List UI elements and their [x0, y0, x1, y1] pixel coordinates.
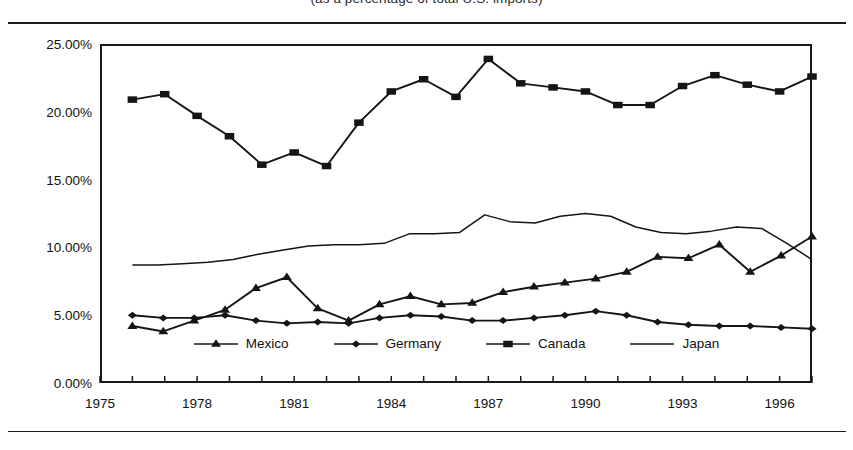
y-axis-tick-label: 5.00%	[6, 308, 92, 323]
data-point-marker	[743, 81, 753, 88]
data-point-marker	[499, 317, 508, 324]
y-axis-tick-label: 20.00%	[6, 104, 92, 119]
y-axis-tick-label: 0.00%	[6, 376, 92, 391]
y-axis-tick-label: 10.00%	[6, 240, 92, 255]
data-point-marker	[807, 232, 817, 240]
data-point-marker	[684, 321, 693, 328]
data-point-marker	[746, 323, 755, 330]
data-point-marker	[322, 163, 332, 170]
data-point-marker	[807, 73, 817, 80]
data-point-marker	[715, 323, 724, 330]
data-point-marker	[128, 96, 138, 103]
data-point-marker	[419, 76, 429, 83]
data-point-marker	[192, 113, 202, 120]
data-point-marker	[127, 321, 137, 329]
data-point-marker	[468, 317, 477, 324]
data-point-marker	[548, 84, 558, 91]
data-point-marker	[581, 88, 591, 95]
x-axis-tick-label: 1975	[85, 396, 115, 411]
data-point-marker	[653, 318, 662, 325]
data-point-marker	[613, 102, 623, 109]
line-chart: 0.00%5.00%10.00%15.00%20.00%25.00% Mexic…	[0, 0, 853, 450]
x-axis-tick-label: 1996	[765, 396, 795, 411]
data-point-marker	[225, 133, 235, 140]
x-axis-tick-label: 1978	[182, 396, 212, 411]
data-point-marker	[128, 312, 137, 319]
data-point-marker	[387, 88, 397, 95]
series-germany	[128, 308, 817, 333]
data-point-marker	[560, 312, 569, 319]
data-point-marker	[808, 325, 817, 332]
data-point-marker	[776, 251, 786, 258]
series-canada	[128, 56, 817, 170]
x-axis-tick-label: 1981	[279, 396, 309, 411]
data-point-marker	[221, 312, 230, 319]
data-point-marker	[777, 324, 786, 331]
data-point-marker	[678, 83, 688, 90]
data-point-marker	[257, 161, 267, 168]
data-point-marker	[653, 252, 663, 260]
data-point-marker	[591, 308, 600, 315]
x-axis-tick-label: 1987	[473, 396, 503, 411]
data-point-marker	[437, 313, 446, 320]
data-point-marker	[160, 91, 170, 98]
data-point-marker	[484, 56, 494, 63]
x-axis-tick-label: 1984	[376, 396, 406, 411]
y-axis-tick-label: 25.00%	[6, 37, 92, 52]
x-axis-tick-label: 1993	[668, 396, 698, 411]
data-point-marker	[622, 312, 631, 319]
data-point-marker	[289, 149, 299, 156]
y-axis: 0.00%5.00%10.00%15.00%20.00%25.00%	[0, 0, 92, 450]
series-line	[132, 59, 812, 166]
data-point-marker	[354, 119, 364, 126]
data-point-marker	[406, 312, 415, 319]
data-point-marker	[313, 318, 322, 325]
data-point-marker	[775, 88, 785, 95]
data-point-marker	[282, 273, 292, 281]
data-point-marker	[645, 102, 655, 109]
data-point-marker	[714, 240, 724, 248]
y-axis-tick-label: 15.00%	[6, 172, 92, 187]
data-point-marker	[710, 72, 720, 79]
data-point-marker	[516, 80, 526, 87]
series-line	[132, 214, 812, 266]
plot-series-layer	[100, 44, 812, 383]
data-point-marker	[375, 314, 384, 321]
data-point-marker	[451, 94, 461, 101]
data-point-marker	[529, 314, 538, 321]
series-japan	[132, 214, 812, 266]
data-point-marker	[251, 317, 260, 324]
x-axis-tick-label: 1990	[570, 396, 600, 411]
data-point-marker	[282, 320, 291, 327]
data-point-marker	[159, 314, 168, 321]
data-point-marker	[405, 292, 415, 300]
